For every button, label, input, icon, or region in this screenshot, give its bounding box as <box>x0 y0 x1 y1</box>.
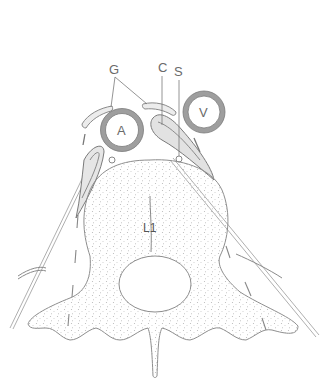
vertebra-l1 <box>28 160 298 378</box>
spinal-canal <box>119 256 191 312</box>
fascia-right <box>236 254 282 278</box>
ganglion-right <box>142 103 176 116</box>
label-vena-cava: V <box>199 105 208 120</box>
node-left <box>109 157 115 163</box>
label-vertebra: L1 <box>143 221 157 235</box>
dash-mark <box>83 134 85 145</box>
label-aorta: A <box>117 123 126 138</box>
label-splanchnic: S <box>174 64 183 79</box>
label-ganglion: G <box>109 62 119 77</box>
anatomy-illustration: G C S A V L1 <box>0 0 327 383</box>
label-crus: C <box>158 60 167 75</box>
